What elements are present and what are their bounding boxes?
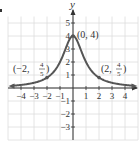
svg-text:−3: −3 <box>29 91 39 101</box>
corner-mark <box>0 9 2 12</box>
svg-text:): ) <box>123 63 126 75</box>
svg-text:−4: −4 <box>16 91 26 101</box>
svg-text:−3: −3 <box>60 122 70 132</box>
svg-text:4: 4 <box>117 61 121 69</box>
left-point-label: (−2, 4 5 ) <box>13 61 49 78</box>
svg-text:5: 5 <box>40 70 44 78</box>
svg-text:−1: −1 <box>60 96 70 106</box>
svg-text:3: 3 <box>110 91 115 101</box>
y-axis-label: y <box>69 0 75 10</box>
svg-text:5: 5 <box>66 18 71 28</box>
right-point-label: (2, 4 5 ) <box>101 61 126 78</box>
svg-text:4: 4 <box>123 91 128 101</box>
svg-text:(2,: (2, <box>101 63 112 75</box>
svg-text:−2: −2 <box>60 109 70 119</box>
svg-text:1: 1 <box>84 91 89 101</box>
svg-text:1: 1 <box>66 70 71 80</box>
svg-text:2: 2 <box>66 57 71 67</box>
function-graph: −4−3−2−1123454321−1−2−3 y (0, 4) (−2, 4 … <box>0 0 140 144</box>
svg-text:−2: −2 <box>42 91 52 101</box>
svg-text:2: 2 <box>97 91 102 101</box>
peak-label: (0, 4) <box>77 29 99 41</box>
svg-text:): ) <box>46 63 49 75</box>
svg-text:(−2,: (−2, <box>13 63 29 75</box>
svg-text:4: 4 <box>40 61 44 69</box>
svg-text:5: 5 <box>117 70 121 78</box>
